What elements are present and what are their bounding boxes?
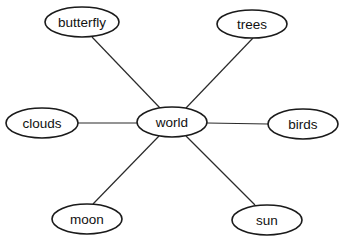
edge-world-sun xyxy=(186,136,255,205)
label-clouds: clouds xyxy=(22,116,61,131)
nodes-group: worldbutterflytreescloudsbirdsmoonsun xyxy=(6,7,338,235)
label-trees: trees xyxy=(237,17,267,32)
node-sun: sun xyxy=(232,205,302,235)
edge-world-birds xyxy=(207,123,268,124)
edge-world-trees xyxy=(186,38,253,108)
label-butterfly: butterfly xyxy=(58,15,106,30)
edge-world-moon xyxy=(93,136,159,204)
node-butterfly: butterfly xyxy=(45,7,119,37)
label-world: world xyxy=(155,115,188,130)
node-trees: trees xyxy=(217,10,287,38)
label-sun: sun xyxy=(256,213,278,228)
center-node-world: world xyxy=(137,107,207,137)
label-birds: birds xyxy=(288,117,318,132)
node-birds: birds xyxy=(268,109,338,139)
node-moon: moon xyxy=(52,204,122,234)
node-clouds: clouds xyxy=(6,108,78,138)
concept-web-diagram: worldbutterflytreescloudsbirdsmoonsun xyxy=(0,0,343,246)
label-moon: moon xyxy=(70,212,104,227)
edge-world-butterfly xyxy=(92,37,160,108)
